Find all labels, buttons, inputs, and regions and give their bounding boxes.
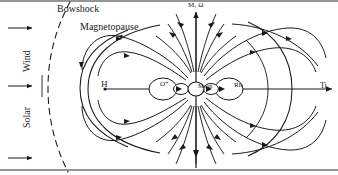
- solar-label: Solar: [22, 107, 32, 128]
- moon-label: Moon: [198, 83, 212, 89]
- o-plus-label: O⁺: [160, 81, 169, 88]
- bowshock-label: Bowshock: [57, 4, 99, 14]
- magnetosphere-diagram: Bowshock Magnetopause M, Ω H Ti Rh O⁺ Mo…: [0, 0, 338, 175]
- wind-label: Wind: [22, 50, 32, 72]
- ti-point-label: Ti: [320, 82, 327, 90]
- rh-point-label: Rh: [234, 82, 242, 89]
- magnetic-axis-label: M, Ω: [188, 2, 204, 9]
- h-point-label: H: [101, 80, 108, 89]
- solar-wind-arrows: [8, 28, 42, 158]
- magnetopause-label: Magnetopause: [80, 22, 138, 32]
- bowshock-curve: [48, 2, 70, 172]
